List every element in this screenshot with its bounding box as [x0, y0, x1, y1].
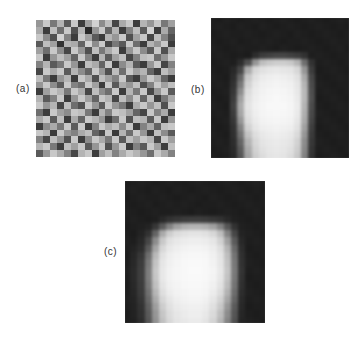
- pixel-cell: [301, 38, 308, 45]
- pixel-cell: [344, 124, 349, 131]
- pixel-cell: [145, 274, 152, 281]
- pixel-cell: [230, 102, 237, 109]
- pixel-cell: [259, 102, 266, 109]
- pixel-cell: [92, 20, 99, 27]
- pixel-cell: [231, 186, 238, 193]
- pixel-cell: [266, 52, 273, 59]
- pixel-cell: [259, 66, 266, 73]
- pixel-cell: [315, 95, 322, 102]
- pixel-cell: [315, 102, 322, 109]
- pixel-cell: [119, 41, 126, 48]
- pixel-cell: [159, 310, 166, 317]
- pixel-cell: [152, 186, 159, 193]
- pixel-cell: [252, 30, 259, 37]
- pixel-cell: [266, 153, 273, 158]
- pixel-cell: [99, 20, 106, 27]
- pixel-cell: [130, 259, 137, 266]
- pixel-cell: [260, 208, 265, 215]
- pixel-cell: [137, 208, 144, 215]
- pixel-cell: [244, 74, 251, 81]
- pixel-cell: [253, 245, 260, 252]
- pixel-cell: [217, 208, 224, 215]
- pixel-cell: [238, 318, 245, 323]
- pixel-cell: [85, 102, 92, 109]
- pixel-cell: [64, 116, 71, 123]
- pixel-cell: [287, 95, 294, 102]
- pixel-cell: [43, 41, 50, 48]
- pixel-cell: [344, 30, 349, 37]
- pixel-cell: [315, 23, 322, 30]
- pixel-cell: [344, 59, 349, 66]
- pixel-cell: [43, 61, 50, 68]
- pixel-cell: [315, 30, 322, 37]
- pixel-cell: [105, 75, 112, 82]
- pixel-cell: [216, 45, 223, 52]
- pixel-cell: [301, 59, 308, 66]
- pixel-cell: [253, 318, 260, 323]
- pixel-cell: [315, 124, 322, 131]
- pixel-cell: [78, 68, 85, 75]
- pixel-cell: [50, 136, 57, 143]
- pixel-cell: [78, 82, 85, 89]
- pixel-cell: [99, 47, 106, 54]
- pixel-cell: [252, 102, 259, 109]
- pixel-cell: [216, 81, 223, 88]
- pixel-cell: [173, 310, 180, 317]
- pixel-cell: [245, 245, 252, 252]
- pixel-cell: [140, 82, 147, 89]
- pixel-cell: [173, 245, 180, 252]
- pixel-cell: [223, 117, 230, 124]
- pixel-cell: [202, 237, 209, 244]
- pixel-cell: [188, 274, 195, 281]
- pixel-cell: [105, 88, 112, 95]
- pixel-cell: [133, 34, 140, 41]
- pixel-cell: [78, 116, 85, 123]
- pixel-cell: [161, 68, 168, 75]
- pixel-cell: [130, 230, 137, 237]
- pixel-cell: [119, 54, 126, 61]
- pixel-cell: [137, 274, 144, 281]
- pixel-cell: [64, 130, 71, 137]
- pixel-cell: [245, 208, 252, 215]
- pixel-cell: [147, 123, 154, 130]
- pixel-cell: [217, 186, 224, 193]
- pixel-cell: [112, 54, 119, 61]
- pixel-cell: [152, 267, 159, 274]
- pixel-cell: [43, 143, 50, 150]
- pixel-cell: [260, 310, 265, 317]
- pixel-cell: [195, 274, 202, 281]
- pixel-cell: [231, 274, 238, 281]
- pixel-cell: [36, 41, 43, 48]
- pixel-cell: [126, 102, 133, 109]
- pixel-cell: [280, 23, 287, 30]
- pixel-cell: [119, 68, 126, 75]
- pixel-cell: [202, 216, 209, 223]
- pixel-cell: [287, 23, 294, 30]
- pixel-cell: [216, 30, 223, 37]
- pixel-cell: [145, 208, 152, 215]
- pixel-cell: [266, 146, 273, 153]
- pixel-cell: [130, 194, 137, 201]
- pixel-cell: [57, 47, 64, 54]
- pixel-cell: [294, 59, 301, 66]
- pixel-cell: [166, 296, 173, 303]
- pixel-cell: [260, 194, 265, 201]
- pixel-cell: [188, 223, 195, 230]
- pixel-cell: [168, 75, 175, 82]
- pixel-cell: [230, 23, 237, 30]
- pixel-cell: [50, 95, 57, 102]
- pixel-cell: [231, 216, 238, 223]
- pixel-cell: [330, 131, 337, 138]
- pixel-cell: [71, 88, 78, 95]
- pixel-cell: [259, 131, 266, 138]
- pixel-cell: [209, 208, 216, 215]
- pixel-cell: [253, 303, 260, 310]
- pixel-cell: [64, 47, 71, 54]
- pixel-cell: [224, 281, 231, 288]
- pixel-cell: [140, 75, 147, 82]
- pixel-cell: [92, 68, 99, 75]
- pixel-cell: [294, 45, 301, 52]
- pixel-cell: [260, 186, 265, 193]
- pixel-cell: [181, 237, 188, 244]
- pixel-cell: [43, 20, 50, 27]
